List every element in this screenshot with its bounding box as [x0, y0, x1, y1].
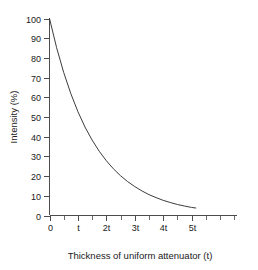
y-axis-title: Intensity (%) — [8, 91, 19, 144]
y-tick-label: 40 — [31, 133, 41, 143]
plot-area: 0102030405060708090100 0t2t3t4t5t Thickn… — [0, 0, 258, 270]
y-tick-label: 50 — [31, 113, 41, 123]
y-tick-label: 10 — [31, 192, 41, 202]
y-tick-label: 70 — [31, 74, 41, 84]
x-tick-label: 4t — [160, 223, 168, 233]
y-tick-label: 20 — [31, 172, 41, 182]
y-axis-group: 0102030405060708090100 — [26, 15, 50, 222]
x-axis-group: 0t2t3t4t5t — [48, 216, 237, 234]
x-axis-minor-ticks — [65, 216, 235, 220]
y-axis-tick-labels: 0102030405060708090100 — [26, 15, 41, 222]
y-tick-label: 0 — [36, 212, 41, 222]
x-axis-tick-labels: 0t2t3t4t5t — [48, 223, 197, 233]
y-tick-label: 30 — [31, 152, 41, 162]
attenuation-chart: 0102030405060708090100 0t2t3t4t5t Thickn… — [0, 0, 258, 270]
x-tick-label: 5t — [189, 223, 197, 233]
y-tick-label: 80 — [31, 54, 41, 64]
attenuation-curve — [50, 19, 196, 209]
x-axis-title: Thickness of uniform attenuator (t) — [68, 250, 213, 261]
x-tick-label: 0 — [48, 223, 53, 233]
y-tick-label: 100 — [26, 15, 41, 25]
y-tick-label: 90 — [31, 34, 41, 44]
y-tick-label: 60 — [31, 93, 41, 103]
x-tick-label: t — [77, 223, 80, 233]
y-axis-ticks — [44, 20, 50, 217]
x-tick-label: 3t — [132, 223, 140, 233]
x-tick-label: 2t — [103, 223, 111, 233]
